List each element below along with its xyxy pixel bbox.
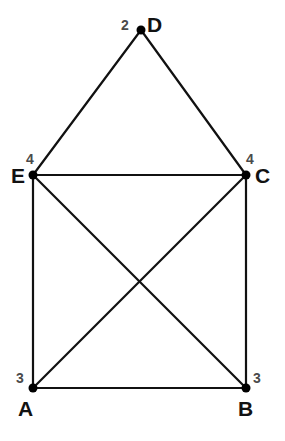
degree-label-a: 3 <box>16 371 24 385</box>
graph-figure: A3B3C4D2E4 <box>0 0 285 441</box>
graph-node-c <box>242 171 251 180</box>
node-layer <box>29 26 251 393</box>
edge-layer <box>33 30 246 388</box>
vertex-label-b: B <box>238 398 253 419</box>
degree-label-c: 4 <box>246 152 254 166</box>
graph-node-a <box>29 384 38 393</box>
vertex-label-c: C <box>255 165 270 186</box>
vertex-label-a: A <box>18 398 33 419</box>
vertex-label-d: D <box>147 14 162 35</box>
graph-edge-d-c <box>141 30 246 175</box>
vertex-label-e: E <box>11 165 25 186</box>
graph-edge-d-e <box>33 30 141 175</box>
graph-node-e <box>29 171 38 180</box>
graph-node-b <box>242 384 251 393</box>
degree-label-e: 4 <box>26 152 34 166</box>
degree-label-d: 2 <box>121 18 129 32</box>
graph-node-d <box>137 26 146 35</box>
degree-label-b: 3 <box>253 371 261 385</box>
graph-canvas <box>0 0 285 441</box>
